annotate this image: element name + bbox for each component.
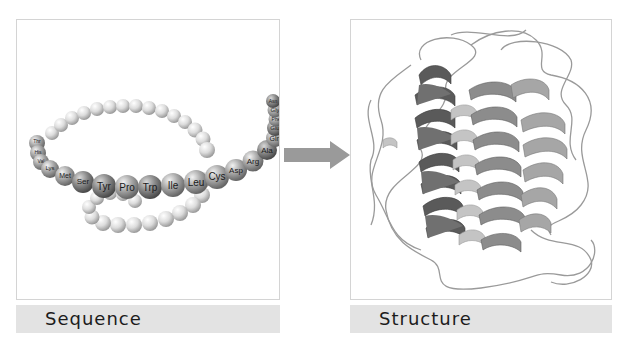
upper-loop-beads xyxy=(45,99,215,158)
svg-text:Asp: Asp xyxy=(229,166,243,175)
svg-text:Cys: Cys xyxy=(208,171,225,182)
helix-mid xyxy=(469,82,525,252)
structure-panel xyxy=(350,19,612,300)
svg-text:Ser: Ser xyxy=(77,177,90,186)
protein-helix-structure-illustration xyxy=(351,20,611,299)
svg-text:Arg: Arg xyxy=(247,157,259,166)
svg-text:Met: Met xyxy=(59,172,71,179)
right-arrow-icon xyxy=(284,140,350,170)
svg-text:Lys: Lys xyxy=(45,165,54,171)
amino-acid-chain-illustration: Thr His Val Lys Met Ser Tyr Pro Trp Ile … xyxy=(17,20,279,299)
structure-caption: Structure xyxy=(379,308,472,329)
svg-text:Ala: Ala xyxy=(261,146,273,155)
structure-caption-bar: Structure xyxy=(350,305,612,333)
sequence-caption-bar: Sequence xyxy=(16,305,280,333)
sequence-panel: Thr His Val Lys Met Ser Tyr Pro Trp Ile … xyxy=(16,19,280,300)
coil-loops xyxy=(368,30,595,289)
svg-text:Leu: Leu xyxy=(188,177,205,188)
svg-text:Pro: Pro xyxy=(119,182,135,193)
svg-text:Tyr: Tyr xyxy=(97,181,112,192)
svg-text:Gly: Gly xyxy=(271,107,280,113)
svg-text:Asn: Asn xyxy=(269,98,278,104)
helix-right xyxy=(511,79,567,233)
svg-text:Ile: Ile xyxy=(168,180,179,191)
svg-text:Thr: Thr xyxy=(33,138,41,144)
sequence-caption: Sequence xyxy=(45,308,142,329)
svg-text:Trp: Trp xyxy=(143,182,158,193)
